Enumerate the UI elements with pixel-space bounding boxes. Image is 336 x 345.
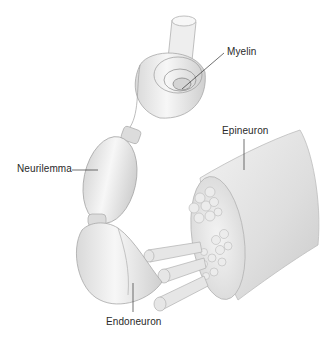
label-neurilemma: Neurilemma [17, 163, 72, 174]
label-endoneuron: Endoneuron [106, 316, 162, 327]
nerve-diagram: Myelin Epineuron Neurilemma Endoneuron [0, 0, 336, 345]
label-myelin: Myelin [227, 46, 257, 57]
myelinated-axon [75, 16, 205, 304]
label-epineuron: Epineuron [222, 125, 269, 136]
